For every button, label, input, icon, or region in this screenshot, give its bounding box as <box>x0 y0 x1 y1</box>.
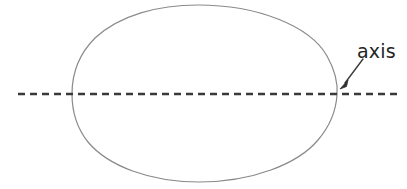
leader-line <box>345 59 363 83</box>
axis-label: axis <box>357 41 396 62</box>
leader-arrow <box>340 59 363 89</box>
diagram-svg <box>0 0 407 189</box>
arrowhead-icon <box>340 80 348 89</box>
figure-canvas: axis <box>0 0 407 189</box>
